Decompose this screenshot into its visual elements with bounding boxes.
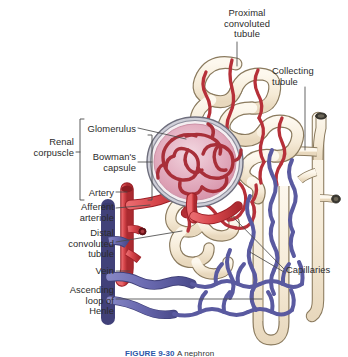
figure-caption: FIGURE 9-30 A nephron [125, 349, 214, 357]
label-glomerulus: Glomerulus [58, 124, 136, 135]
label-collecting-tubule: Collecting tubule [272, 66, 344, 87]
figure-caption-number: FIGURE 9-30 [125, 349, 175, 357]
figure-caption-text: A nephron [177, 349, 214, 357]
label-proximal-convoluted-tubule: Proximal convoluted tubule [208, 8, 286, 40]
label-artery: Artery [48, 188, 114, 199]
label-capillaries: Capillaries [286, 265, 348, 276]
label-distal-convoluted-tubule: Distal convoluted tubule [30, 228, 114, 260]
label-ascending-loop-of-henle: Ascending loop of Henle [30, 285, 114, 317]
label-bowmans-capsule: Bowman's capsule [58, 152, 136, 173]
nephron-figure: Proximal convoluted tubule Collecting tu… [0, 0, 348, 357]
label-afferent-arteriole: Afferent arteriole [42, 202, 114, 223]
label-vein: Vein [48, 266, 114, 277]
